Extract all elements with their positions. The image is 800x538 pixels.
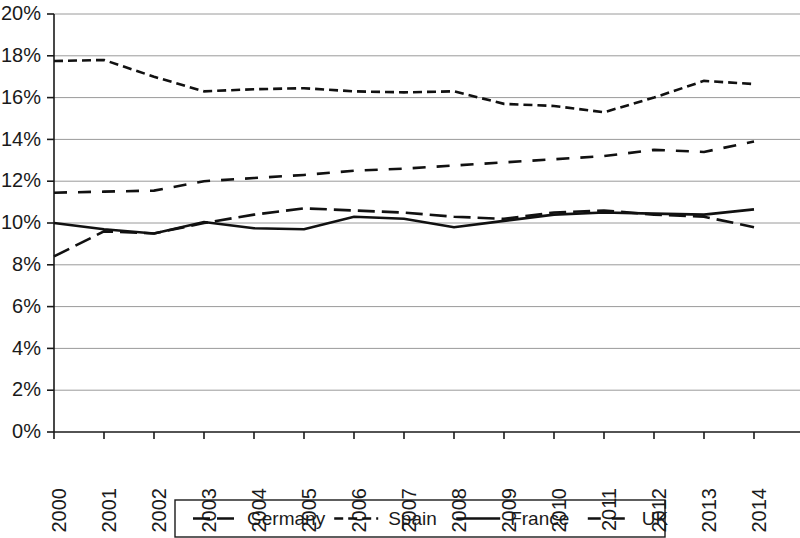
series-lines-group [54, 60, 754, 256]
x-axis-tick-label: 2013 [698, 488, 720, 533]
x-axis-tick-label: 2001 [98, 488, 120, 533]
x-axis-tick-label: 2000 [48, 488, 70, 533]
x-axis-tick-label: 2002 [148, 488, 170, 533]
y-axis-tick-label: 14% [1, 128, 41, 150]
legend-label-uk: UK [642, 508, 669, 529]
y-axis-tick-label: 8% [12, 253, 41, 275]
y-axis-tick-label: 12% [1, 169, 41, 191]
x-axis-ticks-group [54, 432, 754, 439]
y-axis-tick-label: 6% [12, 295, 41, 317]
y-axis-tick-label: 10% [1, 211, 41, 233]
series-line-spain [54, 60, 754, 112]
y-axis-tick-label: 20% [1, 2, 41, 24]
series-line-uk [54, 141, 754, 192]
y-axis-tick-label: 4% [12, 337, 41, 359]
series-line-france [54, 209, 754, 233]
y-axis-tick-label: 16% [1, 86, 41, 108]
x-axis-tick-label: 2003 [198, 488, 220, 533]
y-axis-tick-label: 0% [12, 420, 41, 442]
legend-label-germany: Germany [247, 508, 326, 529]
y-axis-tick-label: 18% [1, 44, 41, 66]
x-axis-tick-label: 2014 [748, 488, 770, 533]
x-axis-tick-label: 2008 [448, 488, 470, 533]
x-axis-tick-label: 2006 [348, 488, 370, 533]
legend-label-spain: Spain [388, 508, 437, 529]
x-axis-tick-label: 2011 [598, 488, 620, 531]
y-axis-tick-label: 2% [12, 378, 41, 400]
line-chart: 0%2%4%6%8%10%12%14%16%18%20% 20002001200… [0, 0, 800, 538]
y-axis-labels-group: 0%2%4%6%8%10%12%14%16%18%20% [1, 2, 41, 442]
legend-label-france: France [510, 508, 569, 529]
chart-canvas: 0%2%4%6%8%10%12%14%16%18%20% 20002001200… [0, 0, 800, 538]
